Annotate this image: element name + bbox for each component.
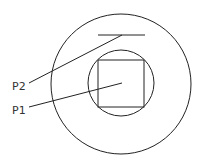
label-p2: P2 — [12, 80, 26, 93]
leader-line-p1 — [29, 83, 122, 107]
diagram-canvas: P2 P1 — [0, 0, 202, 167]
leader-line-p2 — [29, 35, 122, 83]
label-p1: P1 — [12, 104, 26, 117]
